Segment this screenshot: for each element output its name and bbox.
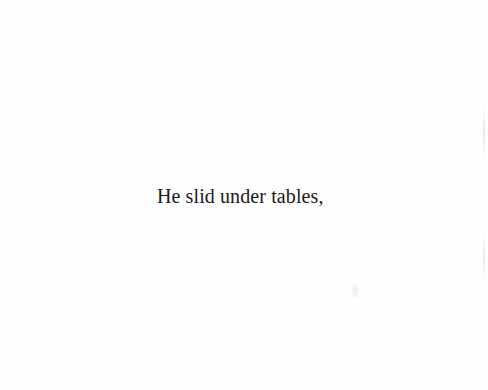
scan-bleed-through-mark xyxy=(483,232,485,282)
scan-noise-speck xyxy=(352,284,358,298)
scan-bleed-through-mark xyxy=(483,105,485,160)
book-page: He slid under tables, xyxy=(0,0,488,390)
story-text-line: He slid under tables, xyxy=(157,184,324,208)
